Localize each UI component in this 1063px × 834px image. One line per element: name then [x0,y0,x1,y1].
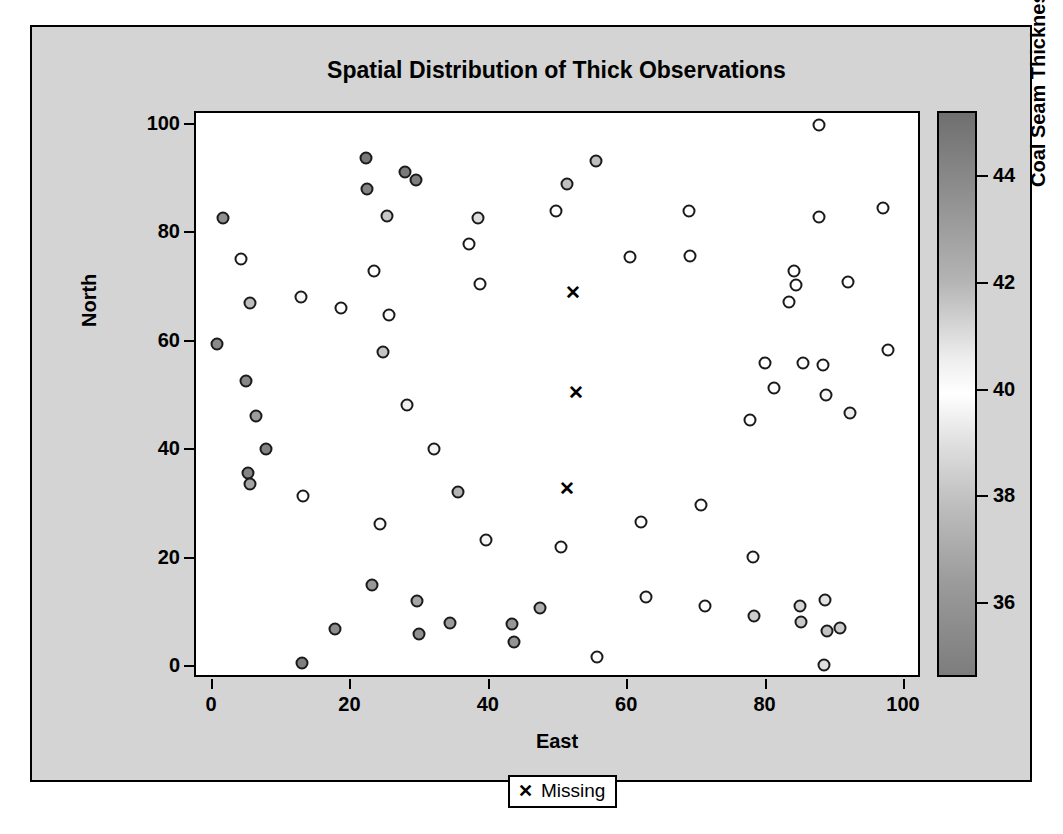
data-point [377,346,390,359]
x-tick-label: 60 [615,693,637,716]
data-point [842,275,855,288]
missing-point-x-icon: ✕ [558,480,576,498]
data-point [876,202,889,215]
data-point [451,485,464,498]
data-point [359,151,372,164]
data-point [329,622,342,635]
data-point [816,359,829,372]
colorbar-tick-label: 36 [993,591,1015,614]
data-point [239,375,252,388]
data-point [474,277,487,290]
data-point [589,154,602,167]
x-tick [488,679,490,689]
y-tick-label: 100 [147,112,180,135]
colorbar-tick-label: 38 [993,484,1015,507]
colorbar-gradient [937,111,977,677]
colorbar-tick [977,175,988,177]
data-point [216,212,229,225]
data-point [398,166,411,179]
data-point [818,594,831,607]
data-point [249,410,262,423]
y-tick [184,231,194,233]
missing-point-x-icon: ✕ [564,284,582,302]
data-point [787,264,800,277]
data-point [794,616,807,629]
data-point [812,119,825,132]
data-point [243,296,256,309]
x-tick-label: 40 [477,693,499,716]
data-point [555,540,568,553]
data-point [758,357,771,370]
chart-title: Spatial Distribution of Thick Observatio… [194,57,919,84]
y-axis: 020406080100 [184,111,194,677]
data-point [381,210,394,223]
colorbar-tick [977,282,988,284]
y-tick-label: 20 [158,545,180,568]
x-axis-title: East [194,730,920,753]
y-tick [184,448,194,450]
data-point [368,265,381,278]
data-point [472,212,485,225]
data-point [463,238,476,251]
x-axis: 020406080100 [194,679,920,723]
x-tick [211,679,213,689]
data-point [793,600,806,613]
y-tick [184,665,194,667]
data-point [374,517,387,530]
data-point [748,609,761,622]
data-point [683,249,696,262]
colorbar-tick [977,389,988,391]
data-point [259,443,272,456]
data-point [591,651,604,664]
data-point [243,478,256,491]
data-point [534,602,547,615]
data-point [768,382,781,395]
data-point [505,617,518,630]
chart-root: Spatial Distribution of Thick Observatio… [0,0,1063,834]
y-tick-label: 80 [158,220,180,243]
colorbar-title: Coal Seam Thickness [1027,0,1050,187]
data-point [335,302,348,315]
x-tick [903,679,905,689]
y-axis-title: North [78,274,101,327]
plot-area: ✕✕✕ [194,111,920,677]
data-point [549,204,562,217]
data-point [797,357,810,370]
colorbar-tick-label: 44 [993,164,1015,187]
data-point [410,174,423,187]
y-tick [184,557,194,559]
x-tick [349,679,351,689]
data-point [818,658,831,671]
data-point [844,407,857,420]
graph-panel: Spatial Distribution of Thick Observatio… [30,25,1032,782]
missing-point-x-icon: ✕ [567,384,585,402]
data-point [634,516,647,529]
data-point [480,533,493,546]
data-point [234,253,247,266]
data-point [366,578,379,591]
data-point [694,499,707,512]
data-point [413,627,426,640]
plot-markers-layer: ✕✕✕ [196,113,918,675]
y-tick-label: 0 [169,654,180,677]
colorbar-tick [977,495,988,497]
x-tick-label: 20 [338,693,360,716]
y-tick [184,340,194,342]
x-tick-label: 80 [753,693,775,716]
data-point [444,617,457,630]
colorbar: 3638404244 [937,111,977,677]
data-point [820,624,833,637]
data-point [508,635,521,648]
data-point [699,600,712,613]
data-point [383,308,396,321]
data-point [561,178,574,191]
data-point [813,210,826,223]
data-point [211,337,224,350]
data-point [746,550,759,563]
x-tick-label: 0 [205,693,216,716]
legend-label-missing: Missing [541,780,605,802]
x-tick-label: 100 [886,693,919,716]
y-tick-label: 60 [158,328,180,351]
colorbar-tick-label: 42 [993,270,1015,293]
legend: ✕ Missing [508,775,617,808]
